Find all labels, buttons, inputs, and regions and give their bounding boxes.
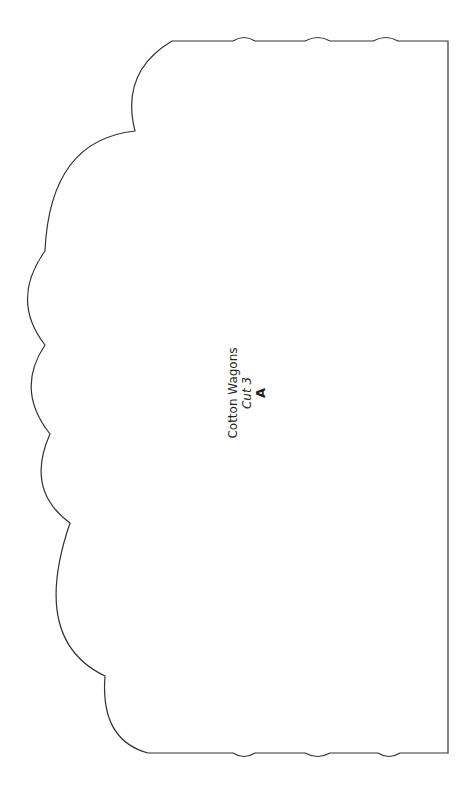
pattern-title: Cotton Wagons — [226, 347, 240, 438]
cut-instruction: Cut 3 — [240, 347, 254, 438]
piece-letter: A — [254, 347, 268, 438]
pattern-label: Cotton Wagons Cut 3 A — [226, 347, 268, 438]
